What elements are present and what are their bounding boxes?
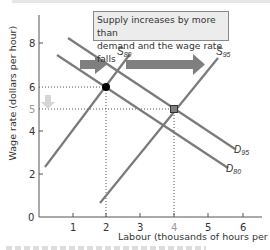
y-tick-label-2: 2 [29,169,35,180]
annotation-line-1: Supply increases by more than [97,13,228,39]
x-axis-label: Labour (thousands of hours per day) [118,231,270,242]
origin-label: 0 [28,212,34,223]
annotation-box: Supply increases by more than demand and… [93,11,229,41]
wage-falls-arrow [41,95,55,109]
supply-curve-s80 [45,54,130,167]
annotation-line-2: demand and the wage rate falls [97,39,228,65]
x-tick-label-1: 1 [70,222,76,233]
y-tick-label-8: 8 [29,38,35,49]
y-tick-label-6: 6 [29,82,35,93]
label-d80: D80 [226,163,241,175]
y-tick-label-5: 5 [29,104,35,115]
equilibrium-point-final [171,106,178,113]
y-axis-label: Wage rate (dollars per hour) [7,41,18,161]
supply-curve-s95 [100,58,218,203]
caption-remnant [6,246,206,250]
label-d95: D95 [234,144,249,156]
x-tick-label-2: 2 [103,222,109,233]
y-tick-label-4: 4 [29,126,35,137]
guide-lines [39,87,174,217]
equilibrium-point-initial [102,83,110,91]
